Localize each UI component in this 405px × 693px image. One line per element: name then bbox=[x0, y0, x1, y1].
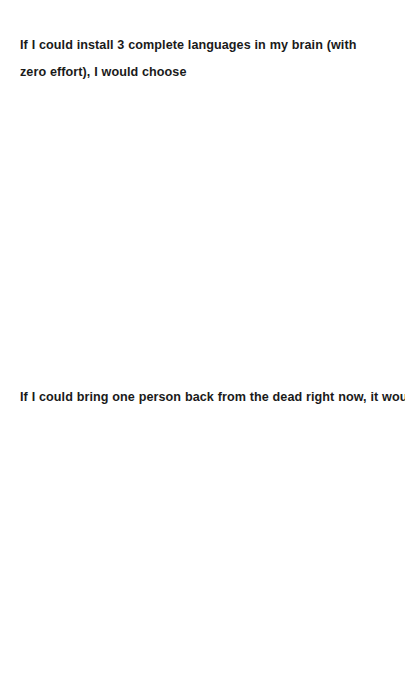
prompt-languages-text: If I could install 3 complete languages … bbox=[20, 32, 386, 86]
prompt-person-text: If I could bring one person back from th… bbox=[20, 384, 392, 411]
prompt-block-person: If I could bring one person back from th… bbox=[20, 384, 388, 411]
page-canvas: If I could install 3 complete languages … bbox=[0, 0, 405, 693]
answer-space-languages[interactable] bbox=[20, 92, 388, 378]
answer-space-person[interactable] bbox=[20, 414, 388, 686]
prompt-block-languages: If I could install 3 complete languages … bbox=[20, 32, 388, 86]
